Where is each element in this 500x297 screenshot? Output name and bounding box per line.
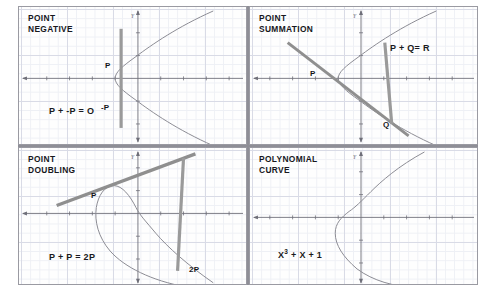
elliptic-curve xyxy=(115,11,213,144)
panel-point-doubling: Y POINT DOUBLING P 2P P + P = 2P xyxy=(18,147,247,286)
equation-polynomial-curve: X3 + X + 1 xyxy=(278,248,322,260)
panel-negative-plot: Y xyxy=(19,7,246,144)
elliptic-curve xyxy=(335,151,424,284)
point-label-p: P xyxy=(310,69,316,78)
equation-point-summation: P + Q= R xyxy=(390,43,430,53)
equation-tail: + X + 1 xyxy=(288,250,322,260)
equation-point-negative: P + -P = O xyxy=(49,106,94,116)
point-label-p: P xyxy=(105,61,111,70)
point-label-q: Q xyxy=(383,120,389,129)
point-label-p: P xyxy=(91,191,97,200)
tangent-line xyxy=(57,153,196,205)
panel-grid: Y POINT NEGATIVE P -P P + -P = O xyxy=(18,6,478,285)
y-axis-label: Y xyxy=(131,153,135,159)
y-axis-label: Y xyxy=(353,13,357,19)
panel-doubling-plot: Y xyxy=(19,148,246,285)
vertical-line xyxy=(385,43,392,124)
panel-polynomial-curve: Y POLYNOMIAL CURVE X3 + X + 1 xyxy=(249,147,478,286)
vertical-line xyxy=(178,157,184,270)
panel-polynomial-plot: Y xyxy=(250,148,477,285)
y-axis-label: Y xyxy=(131,13,135,19)
point-label-2p: 2P xyxy=(189,265,199,274)
panel-point-summation: Y POINT SUMMATION P Q P + Q= R xyxy=(249,6,478,145)
panel-summation-plot: Y xyxy=(250,7,477,144)
y-axis-label: Y xyxy=(353,153,357,159)
equation-point-doubling: P + P = 2P xyxy=(49,252,95,262)
point-label-neg-p: -P xyxy=(101,103,109,112)
figure-root: Y POINT NEGATIVE P -P P + -P = O xyxy=(0,0,500,297)
panel-point-negative: Y POINT NEGATIVE P -P P + -P = O xyxy=(18,6,247,145)
